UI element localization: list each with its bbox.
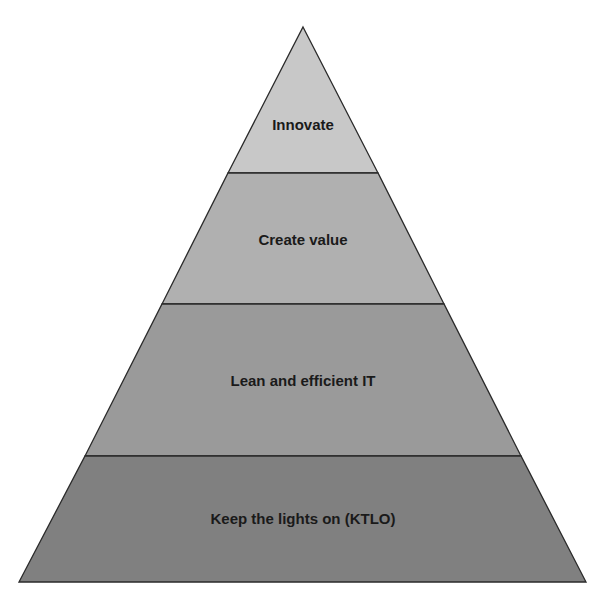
pyramid-level-create-value: Create value: [162, 173, 444, 304]
pyramid-diagram: Innovate Create value Lean and efficient…: [0, 0, 611, 606]
pyramid-level-innovate: Innovate: [228, 27, 378, 173]
level-shape: [228, 27, 378, 173]
pyramid-level-ktlo: Keep the lights on (KTLO): [19, 456, 586, 582]
pyramid-level-lean-efficient-it: Lean and efficient IT: [85, 304, 521, 456]
level-label: Keep the lights on (KTLO): [211, 510, 396, 527]
level-label: Lean and efficient IT: [230, 372, 375, 389]
level-label: Innovate: [272, 116, 334, 133]
level-label: Create value: [258, 231, 347, 248]
